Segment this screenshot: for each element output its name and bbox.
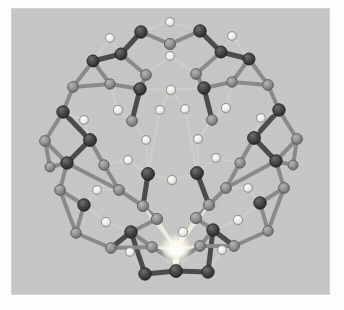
atom-light[interactable] xyxy=(221,103,230,112)
atom-light[interactable] xyxy=(167,175,176,184)
atom-dark[interactable] xyxy=(139,268,151,280)
atom-light[interactable] xyxy=(101,217,110,226)
atom-dark[interactable] xyxy=(57,106,69,118)
atom-light[interactable] xyxy=(93,186,102,195)
atom-light[interactable] xyxy=(124,156,133,165)
atom-dark[interactable] xyxy=(207,224,219,236)
atom-mid[interactable] xyxy=(105,79,115,89)
atom-mid[interactable] xyxy=(263,226,273,236)
molecule-canvas[interactable] xyxy=(11,8,330,295)
atom-mid[interactable] xyxy=(141,70,152,81)
atom-light[interactable] xyxy=(166,18,175,27)
atom-mid[interactable] xyxy=(191,69,202,80)
atom-mid[interactable] xyxy=(221,183,232,194)
figure-root xyxy=(0,0,344,310)
atom-dark[interactable] xyxy=(194,25,206,37)
atom-mid[interactable] xyxy=(68,82,79,93)
atom-mid[interactable] xyxy=(229,241,240,252)
atom-mid[interactable] xyxy=(227,77,237,87)
atom-mid[interactable] xyxy=(288,160,298,170)
atom-dark[interactable] xyxy=(61,157,73,169)
atom-dark[interactable] xyxy=(87,55,99,67)
atom-mid[interactable] xyxy=(71,228,81,238)
atom-light[interactable] xyxy=(156,106,165,115)
atom-mid[interactable] xyxy=(106,243,117,254)
atom-dark[interactable] xyxy=(135,26,147,38)
atom-dark[interactable] xyxy=(270,155,282,167)
atom-mid[interactable] xyxy=(279,183,290,194)
atom-dark[interactable] xyxy=(254,197,266,209)
atom-dark[interactable] xyxy=(248,132,261,145)
atom-light[interactable] xyxy=(106,34,115,43)
atom-light[interactable] xyxy=(244,184,253,193)
atom-mid[interactable] xyxy=(137,200,148,211)
atom-light[interactable] xyxy=(166,85,175,94)
atom-mid[interactable] xyxy=(55,185,66,196)
atom-light[interactable] xyxy=(181,105,190,114)
atom-mid[interactable] xyxy=(45,162,55,172)
atom-light[interactable] xyxy=(166,52,175,61)
atom-mid[interactable] xyxy=(207,115,218,126)
molecule-render-panel[interactable] xyxy=(11,8,330,295)
atom-mid[interactable] xyxy=(195,241,206,252)
atom-light[interactable] xyxy=(80,116,89,125)
atom-mid[interactable] xyxy=(235,158,245,168)
atom-mid[interactable] xyxy=(190,212,201,223)
atom-dark[interactable] xyxy=(78,199,90,211)
atom-mid[interactable] xyxy=(151,213,162,224)
atom-mid[interactable] xyxy=(114,185,125,196)
atom-dark[interactable] xyxy=(170,265,183,278)
atom-mid[interactable] xyxy=(164,38,175,49)
atom-dark[interactable] xyxy=(243,53,255,65)
atom-mid[interactable] xyxy=(263,80,274,91)
atom-light[interactable] xyxy=(142,136,151,145)
atom-dark[interactable] xyxy=(84,134,97,147)
atom-light[interactable] xyxy=(126,248,135,257)
atom-dark[interactable] xyxy=(202,266,214,278)
atom-mid[interactable] xyxy=(147,242,158,253)
atom-light[interactable] xyxy=(212,154,221,163)
atom-mid[interactable] xyxy=(292,134,303,145)
atom-light[interactable] xyxy=(194,135,203,144)
atom-dark[interactable] xyxy=(191,167,204,180)
highlight-atom-layer xyxy=(159,232,193,266)
atom-dark[interactable] xyxy=(115,48,127,60)
highlight-atom[interactable] xyxy=(171,244,181,254)
atom-dark[interactable] xyxy=(134,83,146,95)
atom-light[interactable] xyxy=(233,215,242,224)
atom-light[interactable] xyxy=(257,114,266,123)
atom-light[interactable] xyxy=(228,32,237,41)
atom-dark[interactable] xyxy=(125,226,137,238)
atom-dark[interactable] xyxy=(198,82,210,94)
atom-dark[interactable] xyxy=(273,104,285,116)
atom-mid[interactable] xyxy=(99,160,109,170)
atom-light[interactable] xyxy=(218,246,227,255)
atom-dark[interactable] xyxy=(215,46,227,58)
atom-light[interactable] xyxy=(113,105,122,114)
atom-mid[interactable] xyxy=(127,116,138,127)
atom-mid[interactable] xyxy=(203,199,214,210)
atom-dark[interactable] xyxy=(142,168,155,181)
atom-mid[interactable] xyxy=(40,136,51,147)
